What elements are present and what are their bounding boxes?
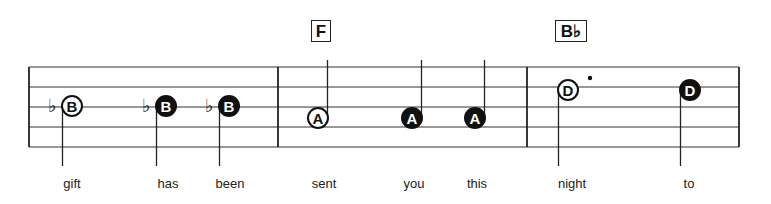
note-letter: B (67, 98, 78, 115)
dot-icon (588, 76, 592, 80)
lyric-word: has (158, 176, 179, 191)
flat-icon: ♭ (142, 95, 151, 116)
lyric-word: night (558, 176, 586, 191)
lyric-word: this (467, 176, 487, 191)
lyric-word: been (216, 176, 245, 191)
lyric-word: gift (63, 176, 80, 191)
music-staff: B♭B♭B♭AAADD (0, 0, 771, 204)
note-letter: B (224, 98, 235, 115)
note-letter: A (313, 110, 324, 127)
note-letter: B (161, 98, 172, 115)
chord-symbol: F (311, 20, 331, 42)
lyric-word: to (684, 176, 695, 191)
flat-icon: ♭ (205, 95, 214, 116)
lyric-word: you (404, 176, 425, 191)
chord-symbol: B♭ (555, 20, 587, 42)
note-letter: A (470, 110, 481, 127)
lyric-word: sent (312, 176, 337, 191)
note-letter: A (407, 110, 418, 127)
note-letter: D (685, 82, 696, 99)
flat-icon: ♭ (48, 95, 57, 116)
note-letter: D (563, 82, 574, 99)
